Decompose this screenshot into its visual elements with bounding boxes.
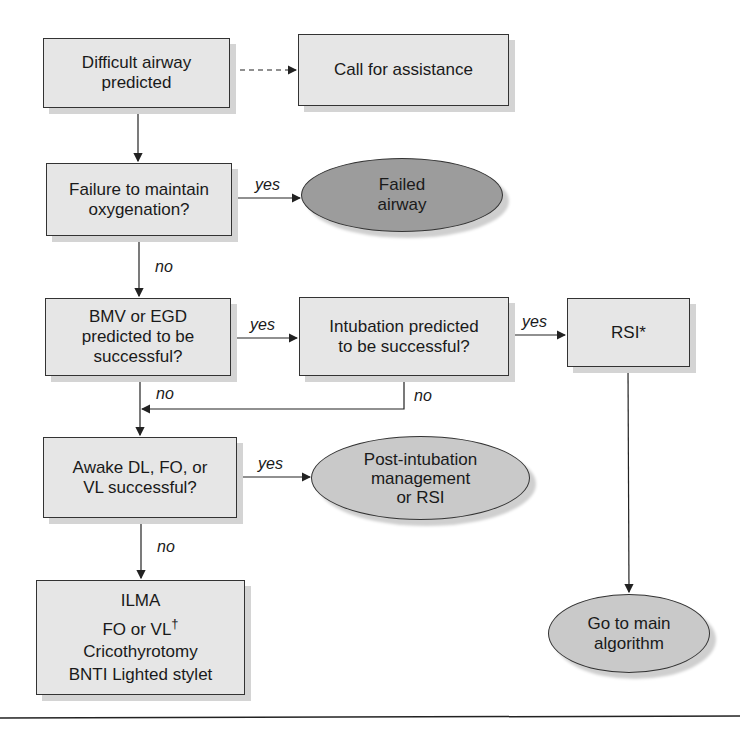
edge-label-no: no xyxy=(414,387,432,405)
edge-label-yes: yes xyxy=(258,455,283,473)
node-alternatives: ILMA FO or VL† Cricothyrotomy BNTI Light… xyxy=(36,580,245,695)
node-text: BMV or EGD predicted to be successful? xyxy=(82,307,194,367)
node-call-assistance: Call for assistance xyxy=(298,34,509,106)
node-difficult-airway: Difficult airway predicted xyxy=(43,38,230,108)
alt-cricothyrotomy: Cricothyrotomy xyxy=(83,640,197,663)
node-text: Difficult airway predicted xyxy=(82,53,191,93)
node-text: Failed airway xyxy=(377,175,426,215)
node-text: RSI* xyxy=(611,323,646,343)
node-text: Awake DL, FO, or VL successful? xyxy=(73,458,208,498)
edge-label-no: no xyxy=(155,258,173,276)
alt-fo-vl: FO or VL† xyxy=(102,612,178,641)
node-text: Go to main algorithm xyxy=(587,614,670,654)
alt-bnti: BNTI Lighted stylet xyxy=(69,663,213,686)
node-text: Failure to maintain oxygenation? xyxy=(69,180,209,220)
bottom-rule xyxy=(0,716,740,718)
node-failure-oxygenation: Failure to maintain oxygenation? xyxy=(46,163,232,236)
node-bmv-egd: BMV or EGD predicted to be successful? xyxy=(45,298,231,376)
node-main-algorithm: Go to main algorithm xyxy=(548,594,710,673)
node-awake: Awake DL, FO, or VL successful? xyxy=(43,437,237,518)
edge-label-no: no xyxy=(156,385,174,403)
node-post-intubation: Post-intubation management or RSI xyxy=(311,436,530,520)
node-failed-airway: Failed airway xyxy=(301,158,503,232)
edge-label-yes: yes xyxy=(522,313,547,331)
node-text: Post-intubation management or RSI xyxy=(364,450,477,507)
node-intubation-predicted: Intubation predicted to be successful? xyxy=(299,297,509,376)
node-text: Intubation predicted to be successful? xyxy=(329,317,478,357)
node-rsi: RSI* xyxy=(567,298,690,367)
edge-label-yes: yes xyxy=(255,176,280,194)
node-text: Call for assistance xyxy=(334,60,473,80)
edge-label-no: no xyxy=(157,538,175,556)
alt-ilma: ILMA xyxy=(121,589,161,612)
edge-label-yes: yes xyxy=(250,316,275,334)
